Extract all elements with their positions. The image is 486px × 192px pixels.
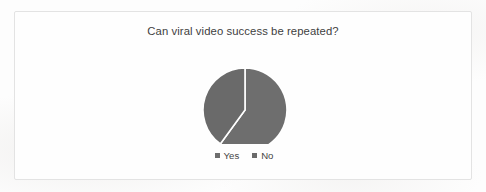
pie-chart-svg [15, 46, 473, 144]
legend-label-yes: Yes [224, 151, 240, 161]
legend-square-marker-icon [252, 153, 257, 158]
legend-square-marker-icon [215, 153, 220, 158]
page-background: Can viral video success be repeated? Yes [0, 0, 486, 192]
pie-chart [15, 46, 473, 144]
chart-container: Can viral video success be repeated? Yes [14, 11, 472, 180]
legend-item-no[interactable]: No [252, 151, 273, 161]
pie-slices [203, 68, 287, 144]
legend-label-no: No [261, 151, 273, 161]
chart-legend: Yes No [15, 151, 473, 161]
legend-item-yes[interactable]: Yes [215, 151, 240, 161]
chart-title: Can viral video success be repeated? [15, 25, 471, 37]
plot-area [15, 46, 473, 144]
